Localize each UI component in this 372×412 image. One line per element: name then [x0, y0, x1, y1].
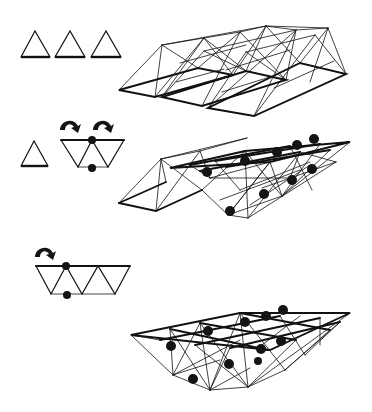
curled-arrow-icon: [35, 248, 56, 260]
joint-dot: [307, 164, 317, 174]
joint-dot: [188, 374, 198, 384]
joint-dot: [309, 134, 319, 144]
curled-arrow-icon: [60, 121, 81, 133]
row3-folded-strip: [36, 262, 130, 299]
hinge-dot: [88, 136, 96, 144]
row3-space-frame-structure: [131, 305, 350, 390]
row2-single-triangle: [21, 141, 48, 166]
hinge-dot: [63, 291, 71, 299]
curled-arrow-icon: [93, 121, 114, 133]
row1-pyramid-truss-structure: [119, 26, 346, 116]
hinge-dot: [88, 164, 96, 172]
joint-dot: [261, 311, 271, 321]
joint-dot: [240, 317, 250, 327]
joint-dot: [240, 156, 250, 166]
row2-folded-strip: [61, 136, 124, 172]
joint-dot: [225, 206, 235, 216]
joint-dot: [278, 305, 288, 315]
diagram-canvas: [0, 0, 372, 412]
row1-triangle-set: [21, 31, 121, 57]
joint-dot: [256, 344, 266, 354]
joint-dot: [276, 336, 286, 346]
triangle-1: [21, 31, 50, 57]
joint-dot: [166, 341, 176, 351]
hinge-dot: [62, 262, 70, 270]
row2-space-frame-structure: [119, 134, 350, 218]
joint-dot: [202, 167, 212, 177]
joint-dot: [287, 175, 297, 185]
joint-dot: [259, 189, 269, 199]
triangle-2: [55, 31, 85, 57]
joint-dot: [203, 326, 213, 336]
triangle-3: [91, 31, 121, 57]
joint-dot: [254, 357, 262, 365]
joint-dot: [224, 359, 234, 369]
joint-dot: [292, 140, 302, 150]
joint-dot: [272, 147, 282, 157]
